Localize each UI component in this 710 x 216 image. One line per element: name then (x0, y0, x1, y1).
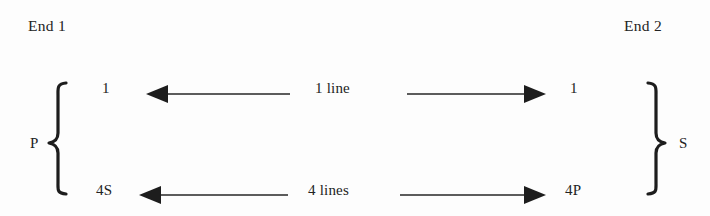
left-curly-brace (49, 83, 66, 194)
right-curly-brace (648, 83, 665, 194)
bottom-row-left-arrow (139, 186, 288, 204)
bottom-row-right-arrowhead (524, 186, 546, 204)
top-row-left-arrowhead (146, 85, 168, 103)
vector-overlay (0, 0, 710, 216)
bottom-row-right-arrow (400, 186, 546, 204)
bottom-row-left-arrowhead (139, 186, 161, 204)
diagram-canvas: End 1 End 2 P S 1 1 4S 4P 1 line 4 lines (0, 0, 710, 216)
top-row-left-arrow (146, 85, 290, 103)
top-row-right-arrowhead (524, 85, 546, 103)
top-row-right-arrow (407, 85, 546, 103)
